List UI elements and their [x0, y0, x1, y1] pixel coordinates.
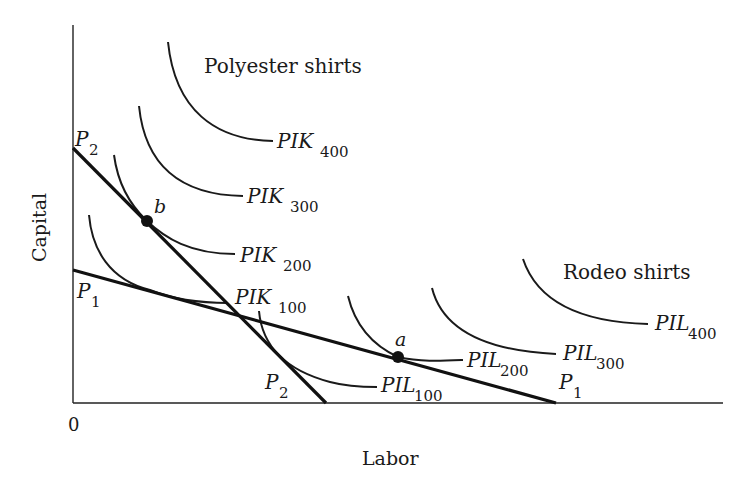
- svg-text:P: P: [558, 370, 573, 394]
- label-p2-base: P 2: [264, 370, 289, 402]
- label-pil100: PIL 100: [380, 373, 443, 405]
- svg-text:1: 1: [91, 293, 101, 311]
- svg-text:PIL: PIL: [654, 311, 690, 335]
- isoquant-pik200: [114, 155, 235, 254]
- polyester-shirts-label: Polyester shirts: [204, 54, 362, 78]
- svg-text:400: 400: [688, 325, 717, 343]
- svg-text:P: P: [264, 370, 279, 394]
- label-pil200: PIL 200: [466, 348, 529, 380]
- x-axis-label: Labor: [362, 447, 420, 469]
- label-pik300: PIK 300: [246, 184, 319, 216]
- point-a: [392, 351, 404, 363]
- label-pik400: PIK 400: [276, 129, 349, 161]
- svg-text:200: 200: [500, 362, 529, 380]
- price-line-p2: [73, 148, 326, 403]
- point-b: [141, 215, 153, 227]
- svg-text:300: 300: [290, 198, 319, 216]
- svg-text:PIL: PIL: [562, 341, 598, 365]
- svg-text:2: 2: [89, 141, 99, 159]
- svg-text:PIK: PIK: [246, 184, 284, 208]
- svg-text:PIK: PIK: [239, 243, 277, 267]
- isoquant-pik100: [89, 215, 228, 303]
- svg-text:300: 300: [596, 355, 625, 373]
- label-p1-axis: P 1: [76, 279, 101, 311]
- label-pil400: PIL 400: [654, 311, 717, 343]
- svg-text:PIK: PIK: [276, 129, 314, 153]
- isoquant-pil300: [432, 288, 556, 354]
- label-pil300: PIL 300: [562, 341, 625, 373]
- svg-text:100: 100: [414, 387, 443, 405]
- price-line-p1: [73, 270, 556, 403]
- isoquant-pik300: [139, 106, 243, 196]
- svg-text:2: 2: [279, 384, 289, 402]
- svg-text:100: 100: [278, 299, 307, 317]
- svg-text:400: 400: [320, 143, 349, 161]
- y-axis-label: Capital: [28, 193, 50, 262]
- rodeo-shirts-label: Rodeo shirts: [563, 260, 691, 284]
- svg-text:PIL: PIL: [466, 348, 502, 372]
- label-pik100: PIK 100: [234, 285, 307, 317]
- point-b-label: b: [154, 195, 166, 217]
- origin-label: 0: [68, 414, 79, 435]
- svg-text:P: P: [74, 127, 89, 151]
- svg-text:200: 200: [283, 257, 312, 275]
- svg-text:PIK: PIK: [234, 285, 272, 309]
- label-p1-base: P 1: [558, 370, 583, 402]
- svg-text:P: P: [76, 279, 91, 303]
- isoquant-diagram: b a Polyester shirts Rodeo shirts PIK 40…: [0, 0, 747, 496]
- svg-text:PIL: PIL: [380, 373, 416, 397]
- point-a-label: a: [395, 328, 406, 350]
- svg-text:1: 1: [573, 384, 583, 402]
- label-pik200: PIK 200: [239, 243, 312, 275]
